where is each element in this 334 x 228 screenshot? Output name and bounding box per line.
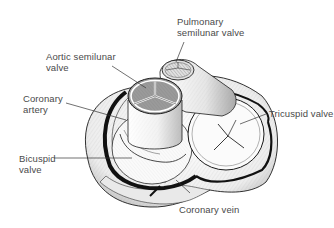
label-pulmonary-semilunar-valve: Pulmonary semilunar valve <box>177 17 245 38</box>
label-coronary-artery: Coronary artery <box>23 94 63 115</box>
label-coronary-vein: Coronary vein <box>179 205 239 216</box>
label-aortic-semilunar-valve: Aortic semilunar valve <box>46 52 116 73</box>
label-tricuspid-valve: Tricuspid valve <box>269 109 334 120</box>
label-bicuspid-valve: Bicuspid valve <box>19 154 56 175</box>
aorta <box>128 78 182 149</box>
leader-aortic <box>112 66 146 88</box>
